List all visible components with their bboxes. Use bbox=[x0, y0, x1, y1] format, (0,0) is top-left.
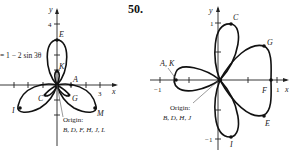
left-inner-loop-c bbox=[45, 85, 57, 96]
right-point-i bbox=[229, 135, 233, 139]
right-tick-y1: 1 bbox=[210, 20, 214, 28]
left-label-i: I bbox=[11, 106, 15, 115]
left-origin-points: B, D, F, H, J, L bbox=[63, 126, 105, 134]
right-point-g bbox=[262, 44, 266, 48]
left-point-c bbox=[44, 94, 47, 97]
right-polar-graph: 50. −1 1 1 −1 x y bbox=[128, 2, 289, 150]
right-tick-x1: 1 bbox=[276, 86, 280, 94]
right-x-label: x bbox=[284, 85, 289, 94]
left-y-label: y bbox=[48, 5, 53, 14]
right-label-f: F bbox=[261, 86, 267, 95]
right-y-label: y bbox=[208, 6, 213, 15]
left-label-a: A bbox=[72, 75, 78, 84]
left-label-c: C bbox=[38, 94, 44, 103]
polar-graphs-figure: 3 4 x y E K A I M C G = 1 − 2 sin 3θ bbox=[0, 0, 291, 154]
right-origin-leader bbox=[193, 81, 218, 103]
left-point-i bbox=[18, 106, 22, 110]
right-point-f bbox=[269, 78, 273, 82]
left-equation: = 1 − 2 sin 3θ bbox=[0, 51, 42, 60]
right-label-e: E bbox=[264, 119, 270, 128]
left-label-m: M bbox=[96, 109, 105, 118]
right-point-c bbox=[229, 22, 233, 26]
left-origin-label: Origin: bbox=[63, 116, 83, 124]
left-label-g: G bbox=[72, 94, 78, 103]
right-label-i: I bbox=[229, 140, 233, 149]
left-label-e: E bbox=[58, 30, 64, 39]
left-polar-graph: 3 4 x y E K A I M C G = 1 − 2 sin 3θ bbox=[0, 5, 118, 146]
right-tick-y-neg1: −1 bbox=[205, 136, 213, 144]
right-point-e bbox=[262, 114, 266, 118]
right-label-g: G bbox=[267, 38, 273, 47]
left-x-label: x bbox=[111, 87, 116, 96]
problem-number: 50. bbox=[128, 2, 143, 16]
right-lobe-right bbox=[220, 45, 271, 115]
right-petal-left bbox=[174, 67, 220, 91]
left-label-k: K bbox=[58, 62, 65, 71]
right-x-arrow-icon bbox=[283, 78, 289, 82]
right-label-ak: A, K bbox=[159, 59, 175, 68]
right-origin-points: B, D, H, J bbox=[163, 114, 192, 122]
right-label-c: C bbox=[233, 13, 239, 22]
right-y-arrow-icon bbox=[216, 6, 220, 12]
right-tick-x-neg1: −1 bbox=[154, 86, 162, 94]
right-origin-point bbox=[218, 78, 222, 82]
left-point-g bbox=[68, 94, 71, 97]
left-tick-x3: 3 bbox=[98, 90, 102, 98]
left-tick-y4: 4 bbox=[48, 21, 52, 29]
right-petal-lower bbox=[215, 80, 239, 137]
right-origin-label: Origin: bbox=[170, 104, 190, 112]
left-y-arrow-icon bbox=[55, 8, 59, 14]
